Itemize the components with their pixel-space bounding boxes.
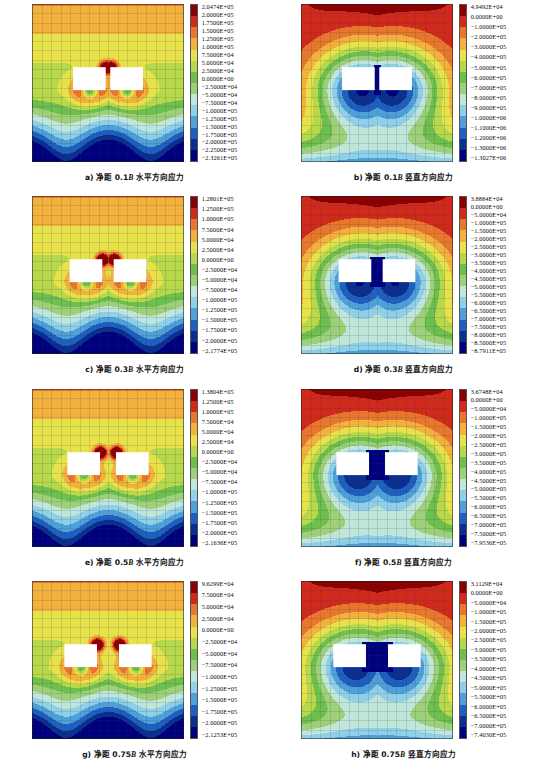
colorbar-ticklabels-h: 3.1129E+040.0000E+00−5.0000E+04−1.0000E+… (471, 581, 507, 739)
colorbar-a: 2.0474E+052.0000E+051.7500E+051.5000E+05… (190, 4, 238, 162)
panel-row-4: 9.6299E+047.5000E+045.0000E+042.5000E+04… (0, 577, 538, 769)
colorbar-tick-label: −7.0000E+05 (471, 85, 507, 92)
colorbar-gradient-f (459, 389, 467, 547)
colorbar-tick-label: −3.0000E+05 (471, 451, 507, 458)
colorbar-ticklabels-g: 9.6299E+047.5000E+045.0000E+042.5000E+04… (202, 581, 238, 739)
colorbar-tick-label: −2.0000E+05 (471, 628, 507, 635)
panel-d-body: 3.8884E+040.0000E+00−5.0000E+04−1.0000E+… (301, 192, 507, 362)
colorbar-tick-label: −6.5000E+05 (471, 513, 507, 520)
colorbar-tick-label: −1.0000E+05 (202, 297, 238, 304)
colorbar-tick-label: −3.0000E+05 (471, 647, 507, 654)
colorbar-tick-label: −5.5000E+05 (471, 495, 507, 502)
panel-h-body: 3.1129E+040.0000E+00−5.0000E+04−1.0000E+… (301, 577, 507, 747)
colorbar-tick-label: 5.0000E+04 (202, 604, 238, 611)
colorbar-tick-label: 3.6748E+04 (471, 389, 507, 396)
colorbar-tick-label: 3.1129E+04 (471, 581, 507, 588)
colorbar-tick-label: −1.7500E+05 (202, 132, 238, 139)
colorbar-tick-label: 3.8884E+04 (471, 196, 507, 203)
colorbar-tick-label: −1.5000E+05 (202, 317, 238, 324)
colorbar-tick-label: 5.0000E+04 (202, 237, 238, 244)
colorbar-tick-label: 5.0000E+04 (202, 429, 238, 436)
colorbar-tick-label: −3.0000E+05 (471, 252, 507, 259)
colorbar-tick-label: 1.2500E+05 (202, 206, 238, 213)
panel-row-2: 1.2801E+051.2500E+051.0000E+057.5000E+04… (0, 192, 538, 384)
colorbar-tick-label: 1.2801E+05 (202, 196, 238, 203)
colorbar-tick-label: 1.3804E+05 (202, 389, 238, 396)
panel-e: 1.3804E+051.2500E+051.0000E+057.5000E+04… (0, 385, 269, 577)
colorbar-tick-label: 1.0000E+05 (202, 44, 238, 51)
colorbar-tick-label: −4.5000E+05 (471, 276, 507, 283)
colorbar-tick-label: −5.0000E+04 (471, 600, 507, 607)
stress-contour-figure: 2.0474E+052.0000E+051.7500E+051.5000E+05… (0, 0, 538, 769)
colorbar-tick-label: −4.0000E+05 (471, 54, 507, 61)
colorbar-tick-label: 2.0474E+05 (202, 4, 238, 11)
panel-a: 2.0474E+052.0000E+051.7500E+051.5000E+05… (0, 0, 269, 192)
panel-c-body: 1.2801E+051.2500E+051.0000E+057.5000E+04… (32, 192, 238, 362)
panel-c: 1.2801E+051.2500E+051.0000E+057.5000E+04… (0, 192, 269, 384)
panel-a-body: 2.0474E+052.0000E+051.7500E+051.5000E+05… (32, 0, 238, 170)
colorbar-tick-label: −1.2500E+05 (202, 307, 238, 314)
colorbar-tick-label: −2.5000E+05 (471, 637, 507, 644)
colorbar-tick-label: −3.5000E+05 (471, 656, 507, 663)
colorbar-tick-label: −1.5000E+05 (202, 510, 238, 517)
colorbar-tick-label: −1.0000E+06 (471, 115, 507, 122)
colorbar-ticklabels-e: 1.3804E+051.2500E+051.0000E+057.5000E+04… (202, 389, 238, 547)
colorbar-tick-label: −6.5000E+05 (471, 308, 507, 315)
contour-plot-d (301, 196, 453, 354)
colorbar-tick-label: −1.7500E+05 (202, 520, 238, 527)
colorbar-tick-label: −1.1000E+06 (471, 125, 507, 132)
caption-d: d) 净距 0.3B 竖直方向应力 (354, 365, 453, 375)
colorbar-tick-label: −2.2500E+05 (202, 147, 238, 154)
contour-plot-h (301, 581, 453, 739)
contour-plot-a (32, 4, 184, 162)
contour-plot-f (301, 389, 453, 547)
colorbar-tick-label: −2.0000E+05 (202, 338, 238, 345)
panel-d: 3.8884E+040.0000E+00−5.0000E+04−1.0000E+… (269, 192, 538, 384)
colorbar-d: 3.8884E+040.0000E+00−5.0000E+04−1.0000E+… (459, 196, 507, 354)
contour-plot-b (301, 4, 453, 162)
colorbar-tick-label: 0.0000E+00 (202, 76, 238, 83)
caption-c: c) 净距 0.3B 水平方向应力 (85, 365, 183, 375)
panel-row-3: 1.3804E+051.2500E+051.0000E+057.5000E+04… (0, 385, 538, 577)
colorbar-tick-label: −1.0000E+05 (471, 24, 507, 31)
colorbar-tick-label: −7.5000E+04 (202, 662, 238, 669)
colorbar-tick-label: −8.0000E+05 (471, 332, 507, 339)
colorbar-tick-label: 1.0000E+05 (202, 409, 238, 416)
colorbar-tick-label: −2.0000E+05 (202, 139, 238, 146)
colorbar-tick-label: −2.1253E+05 (202, 732, 238, 739)
colorbar-tick-label: −6.0000E+05 (471, 504, 507, 511)
colorbar-tick-label: −2.5000E+05 (471, 442, 507, 449)
colorbar-tick-label: 2.5000E+04 (202, 247, 238, 254)
colorbar-b: 4.9492E+040.0000E+00−1.0000E+05−2.0000E+… (459, 4, 507, 162)
colorbar-tick-label: −2.3261E+05 (202, 155, 238, 162)
colorbar-tick-label: 7.5000E+04 (202, 592, 238, 599)
colorbar-gradient-c (190, 196, 198, 354)
panel-b: 4.9492E+040.0000E+00−1.0000E+05−2.0000E+… (269, 0, 538, 192)
colorbar-tick-label: −1.0000E+05 (202, 489, 238, 496)
colorbar-gradient-g (190, 581, 198, 739)
colorbar-tick-label: −1.3027E+06 (471, 155, 507, 162)
colorbar-tick-label: 1.5000E+05 (202, 28, 238, 35)
colorbar-tick-label: −2.5000E+04 (202, 639, 238, 646)
colorbar-tick-label: 0.0000E+00 (202, 449, 238, 456)
colorbar-tick-label: −2.5000E+05 (471, 244, 507, 251)
colorbar-tick-label: −1.5000E+05 (202, 124, 238, 131)
panel-h: 3.1129E+040.0000E+00−5.0000E+04−1.0000E+… (269, 577, 538, 769)
colorbar-tick-label: −7.0000E+05 (471, 723, 507, 730)
caption-f: f) 净距 0.5B 竖直方向应力 (355, 558, 452, 568)
colorbar-tick-label: 0.0000E+00 (471, 204, 507, 211)
colorbar-ticklabels-b: 4.9492E+040.0000E+00−1.0000E+05−2.0000E+… (471, 4, 507, 162)
colorbar-tick-label: −5.5000E+05 (471, 694, 507, 701)
colorbar-tick-label: 1.7500E+05 (202, 20, 238, 27)
colorbar-tick-label: 9.6299E+04 (202, 581, 238, 588)
colorbar-tick-label: 2.5000E+04 (202, 616, 238, 623)
colorbar-tick-label: −6.5000E+05 (471, 713, 507, 720)
colorbar-tick-label: 0.0000E+00 (471, 590, 507, 597)
colorbar-tick-label: 7.5000E+04 (202, 419, 238, 426)
panel-g-body: 9.6299E+047.5000E+045.0000E+042.5000E+04… (32, 577, 238, 747)
colorbar-tick-label: −5.0000E+05 (471, 65, 507, 72)
colorbar-tick-label: −2.0000E+05 (471, 34, 507, 41)
contour-plot-g (32, 581, 184, 739)
colorbar-tick-label: −2.1636E+05 (202, 540, 238, 547)
colorbar-tick-label: −6.0000E+05 (471, 300, 507, 307)
